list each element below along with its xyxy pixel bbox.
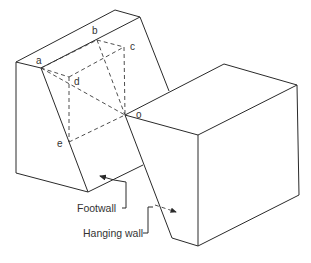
hanging-wall-block: [125, 64, 299, 246]
hanging-wall-arrow-icon: [155, 205, 176, 212]
line-c-o: [124, 47, 125, 115]
footwall-top-face: [16, 10, 140, 68]
footwall-back-edge: [140, 17, 169, 91]
label-e: e: [57, 138, 63, 149]
fault-block-diagram: a b c d e o Footwall Hanging wall: [0, 0, 311, 263]
slip-vectors: [41, 40, 125, 142]
footwall-block: [16, 10, 169, 192]
label-c: c: [130, 41, 135, 52]
hanging-wall-leader: [143, 207, 153, 233]
line-d-c: [69, 47, 124, 77]
hanging-wall-bottom-right-edge: [198, 195, 299, 246]
line-a-o: [41, 68, 125, 115]
label-o: o: [136, 109, 142, 120]
line-b-c: [97, 40, 124, 47]
hanging-wall-bottom-left-edge: [172, 238, 198, 246]
footwall-fault-edge: [41, 68, 88, 192]
footwall-label: Footwall: [77, 202, 116, 214]
footwall-bottom-edge: [16, 173, 88, 192]
line-e-o: [69, 115, 125, 142]
label-a: a: [36, 55, 42, 66]
line-b-o: [97, 40, 125, 115]
diagram-svg: a b c d e o Footwall Hanging wall: [0, 0, 311, 263]
footwall-arrow-icon: [100, 176, 114, 180]
hanging-wall-top-face: [125, 64, 297, 135]
label-d: d: [74, 76, 80, 87]
footwall-base-edge: [88, 165, 143, 192]
hanging-wall-label: Hanging wall: [83, 227, 143, 239]
label-b: b: [92, 25, 98, 36]
hanging-wall-right-edge: [297, 85, 299, 195]
